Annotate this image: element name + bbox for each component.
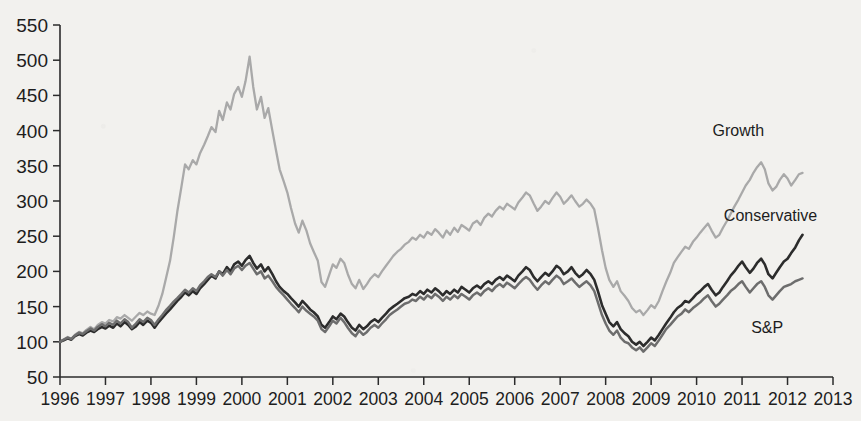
series-label-s-p: S&P — [751, 319, 783, 336]
x-axis-tick-label: 1998 — [131, 389, 170, 409]
y-axis: 50100150200250300350400450500550 — [16, 15, 60, 388]
y-axis-tick-label: 350 — [16, 156, 48, 177]
series-annotations: GrowthConservativeS&P — [713, 122, 818, 336]
series-label-growth: Growth — [713, 122, 765, 139]
x-axis-tick-label: 2012 — [768, 389, 807, 409]
x-axis-tick-label: 2003 — [359, 389, 398, 409]
x-axis: 1996199719981999200020012002200320042005… — [41, 377, 853, 409]
line-chart: 50100150200250300350400450500550 1996199… — [0, 0, 861, 421]
x-axis-tick-label: 2011 — [723, 389, 761, 409]
x-axis-tick-label: 2010 — [677, 389, 716, 409]
y-axis-tick-label: 450 — [16, 85, 48, 106]
y-axis-tick-label: 250 — [16, 226, 48, 247]
y-axis-tick-label: 150 — [16, 297, 48, 318]
x-axis-tick-label: 1997 — [86, 389, 125, 409]
chart-container: 50100150200250300350400450500550 1996199… — [0, 0, 861, 421]
x-axis-tick-label: 2005 — [450, 389, 489, 409]
y-axis-tick-label: 500 — [16, 50, 48, 71]
x-axis-tick-label: 2001 — [268, 389, 307, 409]
series-lines — [60, 57, 803, 352]
y-axis-tick-label: 50 — [27, 367, 48, 388]
y-axis-tick-label: 400 — [16, 121, 48, 142]
x-axis-tick-label: 2000 — [222, 389, 261, 409]
x-axis-tick-label: 2004 — [404, 389, 443, 409]
x-axis-tick-label: 1999 — [177, 389, 216, 409]
y-axis-tick-label: 200 — [16, 261, 48, 282]
y-axis-tick-label: 550 — [16, 15, 48, 36]
y-axis-tick-label: 300 — [16, 191, 48, 212]
series-label-conservative: Conservative — [724, 207, 817, 224]
y-axis-tick-label: 100 — [16, 332, 48, 353]
x-axis-tick-label: 2009 — [632, 389, 671, 409]
x-axis-tick-label: 2002 — [313, 389, 352, 409]
x-axis-tick-label: 2006 — [495, 389, 534, 409]
x-axis-tick-label: 2008 — [586, 389, 625, 409]
x-axis-tick-label: 1996 — [41, 389, 80, 409]
x-axis-tick-label: 2007 — [541, 389, 580, 409]
x-axis-tick-label: 2013 — [814, 389, 853, 409]
